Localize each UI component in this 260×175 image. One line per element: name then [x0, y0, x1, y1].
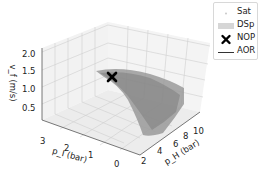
- z-axis-label: v_f (m/s): [8, 64, 18, 101]
- legend: Sat DSp NOP AOR: [213, 2, 258, 60]
- y-tick: 0: [114, 159, 119, 169]
- z-tick: 1.0: [22, 84, 36, 94]
- dsp-patch-icon: [217, 18, 235, 31]
- z-tick: 1.5: [22, 66, 36, 76]
- legend-item-aor: AOR: [214, 44, 259, 57]
- x-tick: 2: [141, 156, 146, 166]
- legend-item-sat: Sat: [214, 5, 259, 18]
- y-tick: 1: [88, 150, 93, 160]
- z-tick: 0.5: [22, 103, 36, 113]
- legend-item-dsp: DSp: [214, 18, 259, 31]
- x-tick: 8: [183, 131, 188, 141]
- legend-item-nop: NOP: [214, 31, 259, 44]
- x-tick: 4: [157, 146, 162, 156]
- line-icon: [217, 44, 235, 57]
- x-marker-icon: [217, 31, 235, 44]
- x-tick: 10: [193, 126, 204, 136]
- sat-point-icon: [217, 5, 235, 18]
- z-tick: 2.0: [22, 49, 36, 59]
- y-tick: 3: [40, 136, 45, 146]
